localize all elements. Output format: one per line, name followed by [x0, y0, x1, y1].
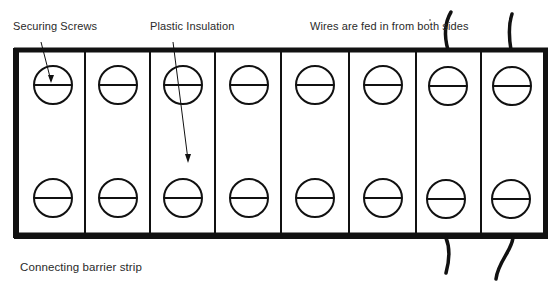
label-securing-screws: Securing Screws — [13, 20, 97, 32]
screw-icon — [34, 66, 72, 104]
screw-icon — [296, 179, 334, 217]
screw-icon — [427, 180, 465, 218]
wire-bottom-left — [446, 238, 449, 273]
barrier-strip-diagram — [0, 0, 551, 288]
figure-caption: Connecting barrier strip — [20, 261, 142, 273]
screw-icon — [429, 67, 467, 105]
screw-icon — [164, 66, 202, 104]
screw-icon — [364, 66, 402, 104]
screw-icon — [99, 66, 137, 104]
wire-top-right — [509, 14, 512, 50]
screw-icon — [99, 179, 137, 217]
wire-bottom-right — [496, 238, 513, 279]
screw-row-top — [34, 66, 531, 105]
label-wires-fed: Wires are fed in from both sides — [310, 20, 468, 32]
screw-icon — [34, 179, 72, 217]
screw-icon — [296, 66, 334, 104]
screw-icon — [230, 179, 268, 217]
screw-icon — [164, 179, 202, 217]
screw-icon — [230, 66, 268, 104]
terminal-dividers — [85, 52, 481, 233]
label-plastic-insulation: Plastic Insulation — [150, 20, 234, 32]
screw-icon — [492, 180, 530, 218]
screw-icon — [364, 179, 402, 217]
screw-icon — [493, 67, 531, 105]
